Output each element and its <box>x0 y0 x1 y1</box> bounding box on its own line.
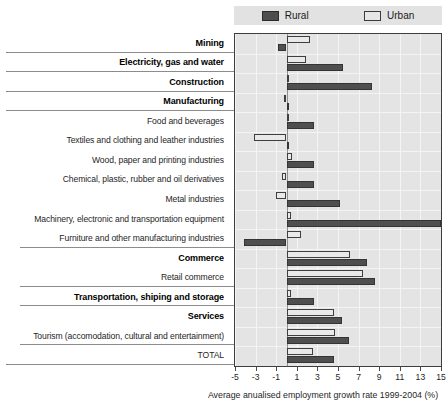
category-label: Wood, paper and printing industries <box>92 150 224 170</box>
bar-urban <box>287 56 307 63</box>
group-separator <box>6 110 234 111</box>
bar-row <box>235 268 441 288</box>
bar-rural <box>287 83 372 90</box>
bar-urban <box>287 270 363 277</box>
bar-row <box>235 54 441 74</box>
category-label: Tourism (accomodation, cultural and ente… <box>33 326 224 346</box>
category-label: Chemical, plastic, rubber and oil deriva… <box>63 170 224 190</box>
bar-rural <box>287 122 315 129</box>
axis-tick-label: 5 <box>336 372 341 382</box>
axis-tick-label: 13 <box>416 372 426 382</box>
axis-tick <box>379 367 380 371</box>
group-separator <box>20 344 234 345</box>
category-label: Construction <box>169 72 224 92</box>
category-label: Textiles and clothing and leather indust… <box>66 131 224 151</box>
x-axis-title: Average anualised employment growth rate… <box>200 390 446 400</box>
bar-row <box>235 229 441 249</box>
group-separator <box>20 305 234 306</box>
axis-tick-label: -5 <box>231 372 239 382</box>
bar-urban <box>287 212 291 219</box>
bar-urban <box>287 153 292 160</box>
axis-tick-label: 7 <box>356 372 361 382</box>
axis-tick <box>359 367 360 371</box>
bar-rural <box>287 317 343 324</box>
chart-legend: Rural Urban <box>234 6 442 25</box>
bar-urban <box>287 75 289 82</box>
bar-rural <box>287 220 442 227</box>
bar-row <box>235 112 441 132</box>
legend-label-urban: Urban <box>387 11 414 21</box>
bar-rural <box>287 103 289 110</box>
bar-urban <box>287 114 289 121</box>
legend-entry-urban: Urban <box>364 11 414 21</box>
bar-urban <box>287 348 314 355</box>
square-swatch-icon <box>364 11 381 21</box>
axis-tick <box>420 367 421 371</box>
axis-tick <box>256 367 257 371</box>
bar-rural <box>244 239 286 246</box>
bar-urban <box>284 95 286 102</box>
axis-tick-label: 11 <box>395 372 404 382</box>
bar-row <box>235 210 441 230</box>
category-label: Services <box>188 306 224 326</box>
bar-urban <box>287 36 311 43</box>
bar-row <box>235 346 441 366</box>
axis-tick <box>276 367 277 371</box>
category-label: Furniture and other manufacturing indust… <box>59 228 224 248</box>
bar-row <box>235 190 441 210</box>
axis-tick <box>400 367 401 371</box>
bar-rural <box>287 356 334 363</box>
bar-rural <box>287 142 289 149</box>
axis-tick-label: -1 <box>272 372 280 382</box>
bar-urban <box>287 290 291 297</box>
bar-row <box>235 73 441 93</box>
category-label: Food and beverages <box>147 111 224 131</box>
axis-tick-label: 1 <box>294 372 299 382</box>
legend-label-rural: Rural <box>285 11 309 21</box>
group-separator <box>6 91 234 92</box>
bar-urban <box>287 329 335 336</box>
employment-growth-chart: Rural Urban MiningElectricity, gas and w… <box>0 0 446 405</box>
axis-tick <box>235 367 236 371</box>
group-separator <box>6 364 234 365</box>
bar-rural <box>287 200 341 207</box>
bar-row <box>235 171 441 191</box>
bar-row <box>235 132 441 152</box>
plot-area <box>234 33 442 367</box>
axis-tick-label: 9 <box>377 372 382 382</box>
bar-urban <box>287 251 351 258</box>
bar-row <box>235 34 441 54</box>
axis-tick <box>317 367 318 371</box>
category-label: Machinery, electronic and transportation… <box>34 209 224 229</box>
group-separator <box>6 52 234 53</box>
bar-urban <box>282 173 286 180</box>
bar-rural <box>287 259 367 266</box>
bar-urban <box>254 134 287 141</box>
category-label: Metal industries <box>165 189 224 209</box>
category-label: Mining <box>196 33 224 53</box>
legend-entry-rural: Rural <box>262 11 309 21</box>
category-label: Commerce <box>178 248 224 268</box>
axis-tick <box>338 367 339 371</box>
bar-rural <box>287 278 376 285</box>
category-label: TOTAL <box>198 345 224 365</box>
category-label: Electricity, gas and water <box>119 53 224 73</box>
group-separator <box>6 71 234 72</box>
axis-tick-label: -3 <box>252 372 260 382</box>
bar-urban <box>276 192 286 199</box>
bar-rural <box>287 161 315 168</box>
group-separator <box>20 286 234 287</box>
bar-row <box>235 307 441 327</box>
bar-rural <box>287 337 350 344</box>
bar-row <box>235 327 441 347</box>
category-label: Transportation, shiping and storage <box>74 287 224 307</box>
bar-rural <box>287 298 315 305</box>
axis-tick <box>297 367 298 371</box>
group-separator <box>20 247 234 248</box>
bar-rural <box>287 181 315 188</box>
bar-row <box>235 93 441 113</box>
category-label: Manufacturing <box>163 92 224 112</box>
bar-row <box>235 151 441 171</box>
bar-rural <box>278 44 286 51</box>
square-swatch-icon <box>262 11 279 21</box>
